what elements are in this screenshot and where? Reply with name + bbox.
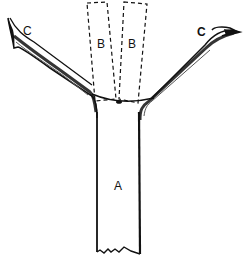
junction-curve xyxy=(92,94,154,101)
label-a: A xyxy=(114,179,122,193)
branch-c-right xyxy=(140,27,240,120)
label-c-left: C xyxy=(23,24,32,38)
junction-knot xyxy=(116,100,122,104)
dashed-outline-b-right xyxy=(119,2,147,103)
diagram-canvas: A B B C C xyxy=(0,0,244,259)
branch-c-left xyxy=(8,18,97,118)
label-b-left: B xyxy=(97,37,105,51)
label-b-right: B xyxy=(128,37,136,51)
label-c-right: C xyxy=(197,25,206,39)
dashed-outline-b-left xyxy=(87,2,116,101)
